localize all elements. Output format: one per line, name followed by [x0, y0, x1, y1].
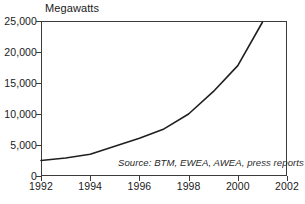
x-axis-tick-label: 2000: [226, 180, 250, 192]
wind-capacity-line-chart: Megawatts 05,00010,00015,00020,00025,000…: [0, 0, 305, 204]
wind-capacity-curve: [41, 22, 262, 160]
y-axis-tick-label-group: 05,00010,00015,00020,00025,000: [0, 0, 37, 204]
data-line-series: [41, 21, 287, 176]
y-axis-tick-label: 25,000: [4, 15, 37, 27]
y-axis-tick-label: 10,000: [4, 108, 37, 120]
x-axis-tick-label: 2002: [275, 180, 299, 192]
y-axis-tick-label: 20,000: [4, 46, 37, 58]
y-axis-tick-label: 15,000: [4, 77, 37, 89]
y-axis-tick-label: 5,000: [10, 139, 37, 151]
y-axis-unit-label: Megawatts: [45, 2, 99, 14]
source-annotation: Source: BTM, EWEA, AWEA, press reports: [118, 157, 304, 168]
x-axis-tick-label: 1994: [78, 180, 102, 192]
x-axis-tick-label: 1992: [29, 180, 53, 192]
x-axis-tick-label: 1996: [128, 180, 152, 192]
x-axis-tick-label: 1998: [177, 180, 201, 192]
